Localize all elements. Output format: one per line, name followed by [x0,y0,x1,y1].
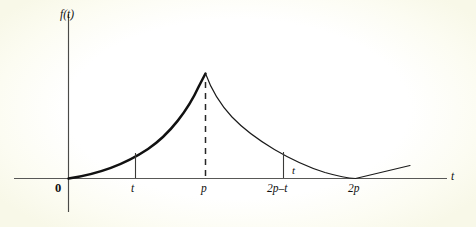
curve-tail-branch [356,166,411,179]
function-plot-svg [0,0,476,227]
tick-label-p: p [201,183,207,195]
curve-rising-branch [69,74,206,179]
tick-label-2p-minus-t: 2p–t [267,183,287,195]
segment-label-t: t [292,165,295,176]
tick-label-t: t [131,183,134,195]
y-axis-label: f(t) [60,9,74,21]
figure-canvas: f(t) t 0 t p 2p–t t 2p [0,0,476,227]
origin-label: 0 [55,182,61,195]
x-axis-label: t [451,171,454,183]
curve-falling-branch [206,74,356,179]
tick-label-2p: 2p [348,183,360,195]
